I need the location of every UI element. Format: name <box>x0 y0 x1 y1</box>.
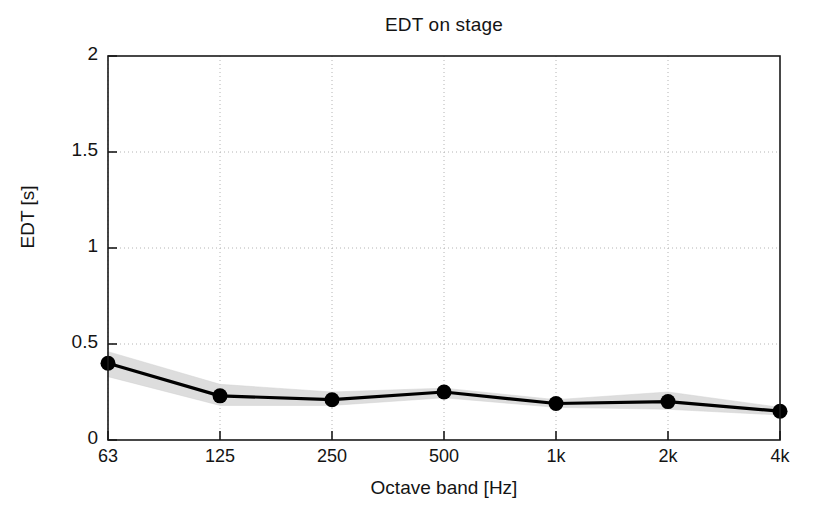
chart-figure: EDT on stage EDT [s] Octave band [Hz] 00… <box>0 0 818 517</box>
y-tick-label: 2 <box>87 43 98 65</box>
x-tick-label: 125 <box>205 446 235 467</box>
y-tick-label: 1.5 <box>72 139 98 161</box>
x-tick-label: 4k <box>770 446 789 467</box>
x-tick-label: 63 <box>98 446 118 467</box>
x-tick-label: 2k <box>658 446 677 467</box>
y-tick-label: 0 <box>87 427 98 449</box>
plot-canvas <box>0 0 818 517</box>
x-tick-label: 500 <box>429 446 459 467</box>
x-tick-label: 1k <box>546 446 565 467</box>
y-tick-label: 0.5 <box>72 331 98 353</box>
y-tick-label: 1 <box>87 235 98 257</box>
x-tick-label: 250 <box>317 446 347 467</box>
std-deviation-band <box>108 352 780 415</box>
